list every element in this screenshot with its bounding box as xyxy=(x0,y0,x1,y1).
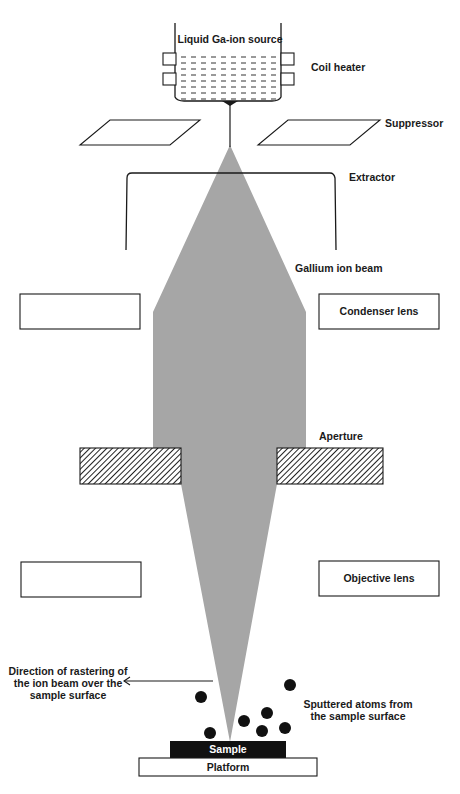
sputter-label-2: the sample surface xyxy=(310,710,405,722)
source-label: Liquid Ga-ion source xyxy=(177,33,282,45)
sputter-label-1: Sputtered atoms from xyxy=(303,698,412,710)
sample-label: Sample xyxy=(209,743,247,755)
fib-diagram: Liquid Ga-ion source Coil heater Suppres… xyxy=(0,0,460,794)
sputtered-atoms xyxy=(195,679,296,739)
gallium-ion-beam xyxy=(153,145,306,742)
extractor-label: Extractor xyxy=(349,171,395,183)
raster-direction-arrow xyxy=(124,677,213,685)
coil-heater-label: Coil heater xyxy=(311,61,365,73)
raster-label-1: Direction of rastering of xyxy=(8,665,128,677)
raster-label-2: the ion beam over the xyxy=(14,677,123,689)
aperture-label: Aperture xyxy=(319,430,363,442)
raster-label-3: sample surface xyxy=(30,689,107,701)
objective-label: Objective lens xyxy=(343,572,414,584)
condenser-label: Condenser lens xyxy=(340,305,419,317)
suppressor-label: Suppressor xyxy=(385,117,443,129)
beam-label: Gallium ion beam xyxy=(295,262,383,274)
platform-label: Platform xyxy=(207,761,250,773)
